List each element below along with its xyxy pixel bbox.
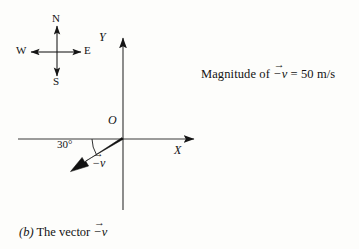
compass-rose [31, 26, 81, 76]
compass-label-north: N [52, 13, 60, 24]
magnitude-equals-sign: = [291, 67, 298, 81]
compass-label-south: S [53, 76, 59, 87]
coordinate-axes [18, 38, 194, 210]
angle-label: 30° [57, 139, 72, 150]
figure-caption: (b) The vector −v → [19, 226, 107, 239]
y-axis-label: Y [99, 31, 106, 43]
magnitude-units: m/s [317, 67, 335, 81]
origin-label: O [108, 114, 117, 126]
magnitude-annotation: Magnitude of −v → = 50 m/s [201, 68, 335, 81]
magnitude-prefix-text: Magnitude of [201, 67, 270, 81]
x-axis-label: X [174, 144, 181, 156]
caption-vector-group: −v → [93, 226, 107, 239]
caption-vector-symbol: −v [93, 225, 107, 239]
vector-label: −v → [92, 157, 105, 169]
caption-part-label: (b) [19, 225, 34, 239]
vector-symbol-text: −v [92, 156, 105, 170]
magnitude-vector-symbol: −v [273, 67, 287, 81]
compass-label-east: E [84, 45, 91, 56]
caption-text: The vector [36, 225, 90, 239]
compass-label-west: W [16, 45, 26, 56]
figure-graphics [0, 0, 359, 249]
magnitude-vector-group: −v → [273, 68, 287, 81]
vector-symbol-group: −v → [92, 157, 105, 169]
magnitude-value: 50 [301, 67, 314, 81]
angle-arc [92, 139, 96, 155]
vector-figure: N S W E Y X O 30° −v → Magnitude of −v →… [0, 0, 359, 249]
